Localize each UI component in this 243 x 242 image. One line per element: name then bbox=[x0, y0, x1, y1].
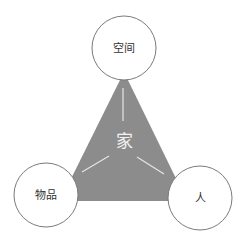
node-things: 物品 bbox=[14, 163, 78, 227]
node-label-things: 物品 bbox=[35, 188, 57, 202]
node-label-people: 人 bbox=[195, 192, 206, 205]
center-label: 家 bbox=[116, 131, 133, 151]
node-space: 空间 bbox=[92, 16, 156, 80]
node-people: 人 bbox=[168, 166, 232, 230]
triad-diagram: 家 空间 物品 人 bbox=[0, 0, 243, 242]
node-label-space: 空间 bbox=[113, 41, 135, 55]
